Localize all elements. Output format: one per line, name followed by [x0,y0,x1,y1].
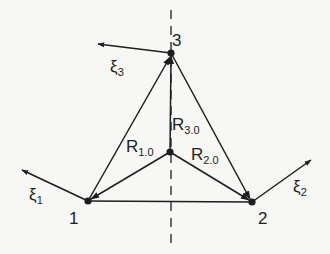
atom-3 [167,49,174,56]
triatomic-molecule-diagram: 3 1 2 R3.0 R1.0 R2.0 ξ3 ξ1 ξ2 [0,0,330,254]
xi2-label: ξ2 [293,177,307,198]
atom-2 [248,198,255,205]
r30-label: R3.0 [172,115,200,136]
xi3-label: ξ3 [110,57,124,78]
r20-label: R2.0 [191,145,219,166]
edge-1-2 [88,201,252,202]
node-1-label: 1 [69,209,78,228]
edge-1-3 [88,57,170,201]
displacement-xi3 [98,44,171,53]
vector-r30 [170,56,171,152]
center-of-mass [166,148,173,155]
node-3-label: 3 [172,31,181,50]
xi1-label: ξ1 [29,185,43,206]
r10-label: R1.0 [126,137,154,158]
atom-1 [84,197,91,204]
node-2-label: 2 [258,209,267,228]
